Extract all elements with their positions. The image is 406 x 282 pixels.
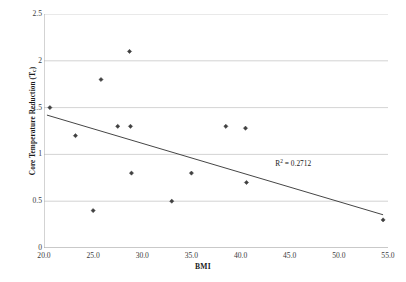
x-tick-label: 35.0 (171, 252, 211, 260)
x-tick-label: 50.0 (319, 252, 359, 260)
x-tick-label: 20.0 (24, 252, 64, 260)
x-tick-label: 45.0 (270, 252, 310, 260)
x-tick-label: 40.0 (221, 252, 261, 260)
scatter-chart-figure: Core Temperature Reduction (Tc) 00.511.5… (0, 0, 406, 282)
x-axis-tick-labels: 20.025.030.035.040.045.050.055.0 (0, 0, 406, 282)
x-axis-title: BMI (0, 262, 406, 271)
x-tick-label: 55.0 (368, 252, 406, 260)
x-tick-label: 30.0 (122, 252, 162, 260)
x-tick-label: 25.0 (73, 252, 113, 260)
